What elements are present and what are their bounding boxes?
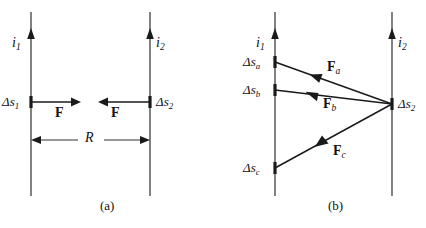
panel-a-force-arrow-left: [98, 98, 150, 107]
panel-b-label-ds-a: Δsa: [243, 55, 260, 71]
force-arrowhead-icon: [310, 74, 323, 83]
panel-a-label-force-left: F: [55, 106, 64, 120]
force-arrowhead-icon: [98, 98, 108, 107]
dimension-arrowhead-left-icon: [31, 136, 41, 144]
force-arrowhead-icon: [306, 92, 319, 102]
dimension-arrowhead-right-icon: [140, 136, 150, 144]
panel-b-label-force-c: Fc: [333, 144, 346, 161]
panel-a-label-ds1: Δs1: [2, 95, 19, 111]
panel-b-current-label-i1: i1: [256, 36, 265, 53]
current-arrow-icon: [388, 28, 396, 39]
panel-a-current-label-i1: i1: [12, 36, 21, 53]
panel-b-label-ds-c: Δsc: [243, 161, 260, 177]
panel-a-current-label-i2: i2: [156, 36, 165, 53]
current-arrow-icon: [271, 28, 279, 39]
physics-figure: i1 i2 Δs1 Δs2 F F R (a) i1 i2 Δsa Δsb Δs…: [0, 0, 426, 228]
panel-a-label-force-right: F: [111, 106, 120, 120]
panel-b-caption: (b): [328, 199, 343, 212]
panel-b-label-force-a: Fa: [327, 60, 340, 77]
current-arrow-icon: [146, 28, 154, 39]
panel-b-label-force-b: Fb: [323, 97, 336, 114]
force-arrowhead-icon: [71, 98, 81, 107]
panel-a-label-ds2: Δs2: [156, 95, 173, 111]
panel-a: [27, 12, 154, 196]
panel-a-label-R: R: [85, 131, 94, 145]
panel-b-label-ds2: Δs2: [398, 97, 415, 113]
figure-canvas: [0, 0, 426, 228]
force-arrowhead-icon: [315, 136, 329, 147]
current-arrow-icon: [27, 28, 35, 39]
panel-b-label-ds-b: Δsb: [243, 83, 260, 99]
panel-a-caption: (a): [100, 199, 114, 212]
panel-b-current-label-i2: i2: [398, 36, 407, 53]
